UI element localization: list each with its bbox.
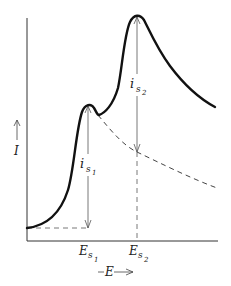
extrapolated-decay-dashed [98,115,217,188]
svg-text:E: E [78,244,88,258]
svg-text:2: 2 [143,256,149,264]
svg-text:i: i [80,156,84,171]
voltammogram-diagram: I i s 1 i s 2 E s 1 E s 2 E [0,0,231,286]
svg-text:E: E [128,244,138,258]
e-s1-label: E s 1 [78,244,98,264]
x-axis-label-group: E [98,265,133,279]
svg-text:s: s [138,250,143,260]
svg-text:1: 1 [92,169,96,177]
svg-text:1: 1 [94,256,98,264]
svg-text:i: i [130,76,134,91]
svg-text:2: 2 [141,89,147,97]
svg-text:s: s [136,84,141,94]
voltammogram-curve [27,16,215,228]
x-axis-label: E [104,265,114,279]
y-axis-label: I [13,144,19,158]
y-axis-arrow-icon [14,120,20,140]
svg-text:s: s [88,250,93,260]
svg-text:s: s [86,164,91,174]
e-s2-label: E s 2 [128,244,149,264]
